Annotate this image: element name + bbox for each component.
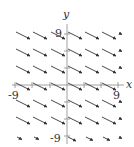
direction-field-plot: y x 9 -9 9 -9 [0, 0, 134, 147]
y-axis-label: y [62, 8, 70, 21]
x-axis-label: x [126, 78, 133, 91]
y-max-label: 9 [55, 27, 62, 40]
y-min-label: -9 [50, 132, 61, 145]
x-min-label: -9 [8, 89, 19, 102]
x-max-label: 9 [113, 89, 120, 102]
axes [12, 24, 124, 144]
